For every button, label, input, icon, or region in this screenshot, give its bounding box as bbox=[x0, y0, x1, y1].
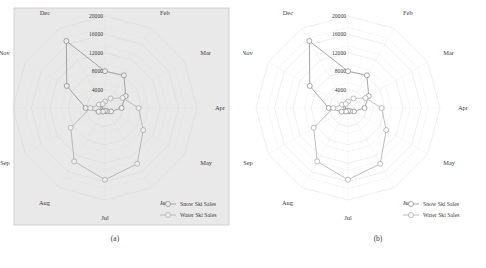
data-point bbox=[96, 109, 101, 114]
legend-swatch-marker bbox=[409, 213, 414, 218]
category-label-apr: Apr bbox=[215, 104, 226, 111]
category-label-mar: Mar bbox=[443, 49, 455, 56]
legend-swatch-marker bbox=[166, 213, 171, 218]
legend-label: Water Ski Sales bbox=[423, 212, 460, 218]
category-label-feb: Feb bbox=[403, 9, 413, 16]
data-point bbox=[119, 106, 124, 111]
data-point bbox=[307, 39, 312, 44]
category-label-nov: Nov bbox=[243, 49, 254, 56]
data-point bbox=[307, 83, 312, 88]
radial-axis-labels: 040008000120001600020000 bbox=[332, 13, 346, 111]
data-point bbox=[363, 95, 368, 100]
grid-spoke bbox=[268, 108, 348, 154]
category-label-feb: Feb bbox=[160, 9, 170, 16]
legend-swatch-marker bbox=[409, 202, 414, 207]
legend-label: Snow Ski Sales bbox=[423, 201, 460, 207]
radar-chart-figure: 040008000120001600020000JanFebMarAprMayJ… bbox=[0, 0, 486, 268]
radial-tick-label: 4000 bbox=[335, 87, 346, 93]
data-point bbox=[378, 161, 383, 166]
legend: Snow Ski SalesWater Ski Sales bbox=[403, 201, 460, 218]
subfigure-b: 040008000120001600020000JanFebMarAprMayJ… bbox=[243, 0, 486, 240]
category-label-jan: Jan bbox=[101, 0, 110, 1]
data-point bbox=[362, 106, 367, 111]
radar-chart-a: 040008000120001600020000JanFebMarAprMayJ… bbox=[0, 0, 243, 240]
legend-swatch-marker bbox=[166, 202, 171, 207]
category-label-aug: Aug bbox=[39, 199, 51, 206]
caption-row: (a) (b) bbox=[0, 234, 486, 254]
category-label-jul: Jul bbox=[344, 214, 352, 221]
category-label-jan: Jan bbox=[344, 0, 353, 1]
data-point bbox=[311, 125, 316, 130]
radial-tick-label: 8000 bbox=[92, 68, 103, 74]
data-point bbox=[364, 73, 369, 78]
data-point bbox=[343, 102, 348, 107]
category-label-sep: Sep bbox=[0, 159, 10, 166]
data-point bbox=[136, 106, 141, 111]
data-point bbox=[108, 96, 113, 101]
data-point bbox=[346, 177, 351, 182]
data-point bbox=[331, 106, 336, 111]
data-point bbox=[88, 106, 93, 111]
subfigure-a-caption: (a) bbox=[85, 234, 145, 243]
radial-tick-label: 12000 bbox=[89, 50, 103, 56]
radial-tick-label: 20000 bbox=[89, 13, 103, 19]
data-point bbox=[135, 161, 140, 166]
category-label-dec: Dec bbox=[283, 9, 293, 16]
subfigure-a: 040008000120001600020000JanFebMarAprMayJ… bbox=[0, 0, 243, 240]
category-label-apr: Apr bbox=[458, 104, 469, 111]
data-point bbox=[351, 96, 356, 101]
plot-background-panel bbox=[14, 8, 229, 225]
grid-spoke bbox=[348, 62, 428, 108]
data-point bbox=[379, 106, 384, 111]
radial-tick-label: 4000 bbox=[92, 87, 103, 93]
data-point bbox=[64, 83, 69, 88]
data-point bbox=[103, 69, 108, 74]
category-label-dec: Dec bbox=[40, 9, 50, 16]
data-point bbox=[103, 177, 108, 182]
data-point bbox=[68, 125, 73, 130]
data-point bbox=[141, 128, 146, 133]
data-point bbox=[72, 159, 77, 164]
radial-tick-label: 16000 bbox=[332, 31, 346, 37]
category-label-may: May bbox=[200, 159, 213, 166]
data-point bbox=[100, 102, 105, 107]
legend-label: Snow Ski Sales bbox=[180, 201, 217, 207]
grid-spoke bbox=[348, 108, 394, 188]
radial-tick-label: 8000 bbox=[335, 68, 346, 74]
radial-tick-label: 20000 bbox=[332, 13, 346, 19]
data-point bbox=[64, 39, 69, 44]
radial-tick-label: 16000 bbox=[89, 31, 103, 37]
data-point bbox=[384, 128, 389, 133]
data-point bbox=[346, 69, 351, 74]
radial-tick-label: 12000 bbox=[332, 50, 346, 56]
subfigure-b-caption: (b) bbox=[348, 234, 408, 243]
data-point bbox=[339, 109, 344, 114]
category-label-may: May bbox=[443, 159, 456, 166]
legend-label: Water Ski Sales bbox=[180, 212, 217, 218]
category-label-mar: Mar bbox=[200, 49, 212, 56]
radar-chart-b: 040008000120001600020000JanFebMarAprMayJ… bbox=[243, 0, 486, 240]
category-label-aug: Aug bbox=[282, 199, 294, 206]
category-label-sep: Sep bbox=[243, 159, 253, 166]
data-point bbox=[315, 159, 320, 164]
category-label-nov: Nov bbox=[0, 49, 11, 56]
data-point bbox=[121, 73, 126, 78]
data-point bbox=[120, 95, 125, 100]
category-label-jul: Jul bbox=[101, 214, 109, 221]
